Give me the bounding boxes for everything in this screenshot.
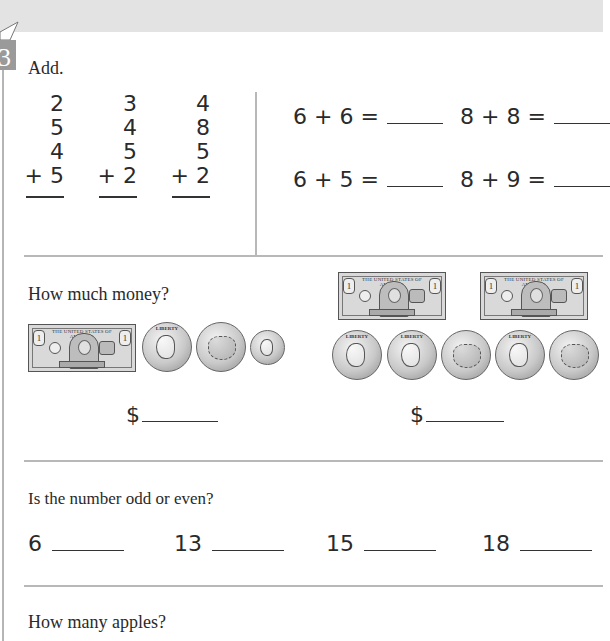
equation-1: 6 + 6 = <box>293 104 443 129</box>
answer-blank[interactable] <box>520 549 592 551</box>
quarter-icon: LIBERTY <box>332 330 382 380</box>
answer-blank[interactable] <box>212 549 284 551</box>
quarter-icon: LIBERTY <box>495 330 545 380</box>
vertical-problem-3: 4 8 5 + 2 <box>166 92 210 198</box>
section-divider <box>24 585 603 587</box>
quarter-icon: LIBERTY <box>387 330 437 380</box>
dollar-bill-icon: THE UNITED STATES OF AMERICA 1 1 <box>338 272 446 320</box>
answer-blank[interactable] <box>364 549 436 551</box>
quarter-back-icon <box>549 330 599 380</box>
section-divider <box>24 255 603 257</box>
dollar-bill-icon: THE UNITED STATES OF AMERICA 1 1 <box>28 324 136 372</box>
money-prompt: How much money? <box>28 284 169 305</box>
quarter-back-icon <box>441 330 491 380</box>
section-number-tab-icon: 3 <box>0 18 22 76</box>
left-margin-rule <box>2 32 4 641</box>
equation-3: 6 + 5 = <box>293 167 443 192</box>
odd-even-item-18: 18 <box>482 531 592 556</box>
money-answer-2: $ <box>410 402 504 427</box>
answer-line <box>99 196 137 198</box>
answer-blank[interactable] <box>52 549 124 551</box>
add-prompt: Add. <box>28 58 64 79</box>
quarter-icon: LIBERTY <box>142 322 192 372</box>
answer-blank[interactable] <box>142 420 218 422</box>
odd-even-item-13: 13 <box>174 531 284 556</box>
odd-even-item-6: 6 <box>28 531 124 556</box>
answer-blank[interactable] <box>387 185 443 187</box>
odd-even-item-15: 15 <box>326 531 436 556</box>
svg-text:3: 3 <box>0 43 11 72</box>
equation-2: 8 + 8 = <box>460 104 610 129</box>
section-divider-vertical <box>255 92 257 255</box>
section-divider <box>24 460 603 462</box>
equation-4: 8 + 9 = <box>460 167 610 192</box>
answer-blank[interactable] <box>387 122 443 124</box>
answer-blank[interactable] <box>554 122 610 124</box>
header-band <box>0 0 603 32</box>
dime-icon <box>250 330 285 365</box>
apples-prompt: How many apples? <box>28 612 166 633</box>
quarter-back-icon <box>196 322 246 372</box>
dollar-bill-icon: THE UNITED STATES OF AMERICA 1 1 <box>480 272 588 320</box>
answer-line <box>26 196 64 198</box>
answer-line <box>172 196 210 198</box>
answer-blank[interactable] <box>554 185 610 187</box>
answer-blank[interactable] <box>426 420 504 422</box>
money-answer-1: $ <box>126 402 218 427</box>
vertical-problem-1: 2 5 4 + 5 <box>20 92 64 198</box>
odd-even-prompt: Is the number odd or even? <box>28 489 214 509</box>
vertical-problem-2: 3 4 5 + 2 <box>93 92 137 198</box>
